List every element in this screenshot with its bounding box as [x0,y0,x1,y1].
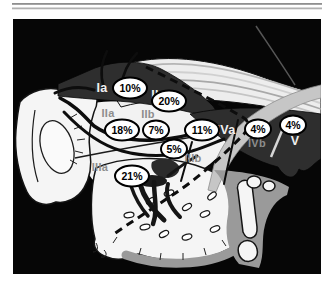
bone-fragment [263,181,275,191]
anatomy-figure-page: Ia10%Ib20%IIa18%IIb7%IIIa21%IIIb5%IVa11%… [0,0,332,286]
percent-value-Ib: 20% [158,95,180,107]
percent-value-V: 4% [285,119,301,131]
level-label-IIIa: IIIa [92,161,109,173]
level-label-IIa: IIa [101,107,115,119]
percent-value-IVb: 4% [250,123,266,135]
percent-value-IIb: 7% [148,124,164,136]
figure-canvas: Ia10%Ib20%IIa18%IIb7%IIIa21%IIIb5%IVa11%… [0,0,332,286]
percent-value-Ia: 10% [119,82,141,94]
level-label-IIIb: IIIb [184,152,201,164]
level-label-IIb: IIb [141,108,155,120]
percent-value-IIa: 18% [111,124,133,136]
humerus-knob [247,176,261,188]
level-label-V: V [291,134,300,148]
top-border-line-1 [12,3,322,5]
top-border-line-2 [12,8,322,10]
percent-value-IIIa: 21% [121,170,143,182]
percent-value-IIIb: 5% [166,143,182,155]
lower-bone [238,241,257,262]
percent-value-IVa: 11% [192,124,213,136]
level-label-Ia: Ia [96,81,108,95]
